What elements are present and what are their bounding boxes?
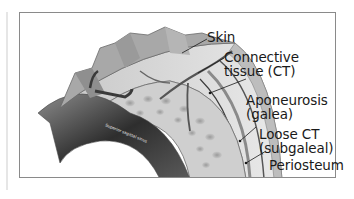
page-edge-line <box>6 12 8 190</box>
label-aponeurosis-line1: Aponeurosis <box>246 93 328 107</box>
label-skin: Skin <box>207 30 235 44</box>
label-aponeurosis-line2: (galea) <box>246 107 328 121</box>
label-connective-tissue: Connective tissue (CT) <box>224 50 299 78</box>
label-loose-ct-line2: (subgaleal) <box>259 141 334 155</box>
label-connective-tissue-line2: tissue (CT) <box>224 64 299 78</box>
label-periosteum: Periosteum <box>269 158 344 172</box>
label-connective-tissue-line1: Connective <box>224 50 299 64</box>
label-skin-text: Skin <box>207 29 235 45</box>
label-loose-ct-line1: Loose CT <box>259 127 334 141</box>
label-aponeurosis: Aponeurosis (galea) <box>246 93 328 121</box>
label-loose-ct: Loose CT (subgaleal) <box>259 127 334 155</box>
label-periosteum-text: Periosteum <box>269 157 344 173</box>
